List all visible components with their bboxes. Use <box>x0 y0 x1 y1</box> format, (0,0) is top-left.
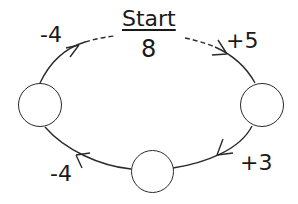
answer-circle-left[interactable] <box>18 83 62 127</box>
arrow-bottom-right-icon <box>217 139 233 155</box>
answer-circle-right[interactable] <box>240 83 284 127</box>
answer-circle-bottom[interactable] <box>131 150 174 193</box>
arc-left-to-start <box>40 42 85 83</box>
operation-label-bottom-left: -4 <box>50 163 72 185</box>
start-label: Start <box>122 8 176 30</box>
arrow-top-left-icon <box>66 45 79 57</box>
arc-left-to-start-dashed <box>85 36 115 42</box>
operation-label-top-left: -4 <box>40 24 62 46</box>
operation-label-top-right: +5 <box>226 30 258 52</box>
start-value: 8 <box>141 37 156 61</box>
arc-start-to-right-dashed <box>185 38 215 47</box>
operation-label-bottom-right: +3 <box>240 152 272 174</box>
